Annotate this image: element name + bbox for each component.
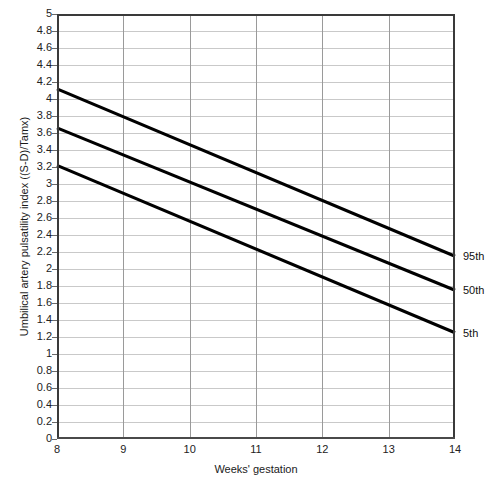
x-axis-title: Weeks' gestation [57, 463, 455, 476]
plot-area [57, 14, 455, 439]
x-tick-label: 9 [103, 443, 143, 456]
series-label-50th: 50th [463, 285, 484, 296]
plot-border-top [57, 14, 455, 16]
y-axis-title: Umbilical artery pulsatility index ((S-D… [16, 14, 32, 439]
series-lines [57, 14, 455, 439]
x-axis-tick-labels: 891011121314 [0, 443, 492, 459]
x-tick-label: 8 [37, 443, 77, 456]
x-tick-label: 13 [369, 443, 409, 456]
y-axis-line [57, 14, 59, 439]
x-tick-label: 10 [170, 443, 210, 456]
series-line [57, 89, 455, 256]
series-label-5th: 5th [463, 328, 478, 339]
y-tick-mark [52, 439, 57, 440]
plot-border-right [453, 14, 455, 439]
x-tick-label: 11 [236, 443, 276, 456]
series-line [57, 165, 455, 332]
x-tick-label: 12 [302, 443, 342, 456]
x-tick-label: 14 [435, 443, 475, 456]
x-axis-line [57, 437, 455, 439]
series-label-95th: 95th [463, 251, 484, 262]
umbilical-artery-pi-chart: 00.20.40.60.811.21.41.61.822.22.42.62.83… [0, 0, 492, 481]
series-line [57, 128, 455, 290]
